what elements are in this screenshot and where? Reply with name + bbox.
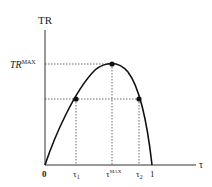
x-axis-label: τ <box>199 159 203 170</box>
one-label: 1 <box>150 169 155 179</box>
y-axis-label: TR <box>38 14 53 26</box>
laffer-curve-diagram: TR τ 0 TRMAX τ1 τMAX τ2 1 <box>0 0 212 187</box>
point-t1 <box>73 96 78 101</box>
t2-label: τ2 <box>136 169 143 180</box>
tmax-label: τMAX <box>106 169 122 179</box>
origin-label: 0 <box>42 169 47 179</box>
t1-label: τ1 <box>73 169 80 180</box>
trmax-label: TRMAX <box>10 59 36 70</box>
point-tmax <box>109 61 114 66</box>
point-t2 <box>136 96 141 101</box>
guide-lines <box>45 64 139 165</box>
revenue-curve <box>45 64 152 166</box>
